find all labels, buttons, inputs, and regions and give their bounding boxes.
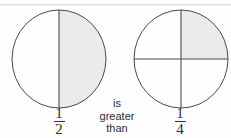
right-fraction-label: 1 4 (160, 107, 200, 136)
shaded-half-region (59, 10, 106, 108)
right-fraction-denominator: 4 (160, 123, 200, 136)
comparison-line-greater: greater (89, 110, 145, 123)
fraction-comparison-figure: 1 2 is greater than 1 4 (0, 0, 231, 138)
left-fraction-label: 1 2 (39, 107, 79, 136)
comparison-line-is: is (89, 97, 145, 110)
comparison-line-than: than (89, 122, 145, 135)
right-fraction-numerator: 1 (160, 107, 200, 120)
left-fraction-denominator: 2 (39, 123, 79, 136)
one-quarter-circle-diagram (132, 8, 230, 110)
one-half-circle-diagram (10, 8, 108, 110)
comparison-text-block: is greater than (89, 97, 145, 135)
shaded-quadrant-region (181, 10, 228, 59)
scan-artifact-line-secondary (0, 5, 231, 6)
left-fraction-numerator: 1 (39, 107, 79, 120)
